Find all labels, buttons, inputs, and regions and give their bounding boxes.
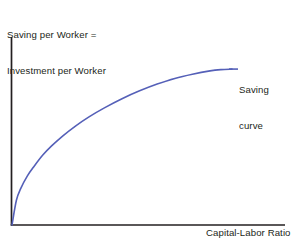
y-axis-label-line-2: Investment per Worker [7, 65, 106, 77]
x-axis-label: Capital-Labor Ratio [206, 227, 291, 239]
y-axis-label: Saving per Worker = Investment per Worke… [7, 5, 106, 101]
curve-label-line-1: Saving [239, 84, 269, 96]
y-axis-label-line-1: Saving per Worker = [7, 29, 106, 41]
curve-label-line-2: curve [239, 120, 269, 132]
saving-curve-figure: Saving per Worker = Investment per Worke… [0, 0, 295, 243]
curve-label: Saving curve [239, 60, 269, 156]
